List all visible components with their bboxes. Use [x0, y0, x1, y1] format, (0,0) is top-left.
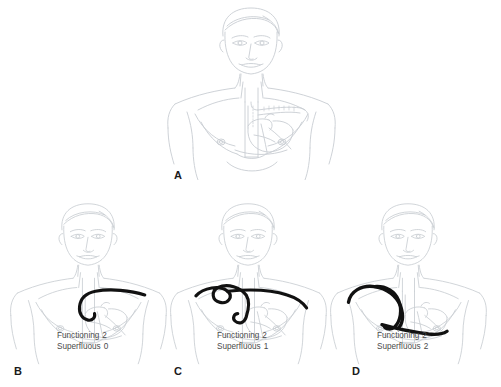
functioning-label: Functioning	[377, 331, 419, 340]
superfluous-value: 0	[104, 342, 109, 351]
pacemaker-lead-functioning	[228, 290, 307, 308]
superfluous-row: Superfluous1	[217, 342, 268, 353]
functioning-row: Functioning2	[57, 331, 108, 342]
functioning-label: Functioning	[217, 331, 259, 340]
superfluous-label: Superfluous	[377, 342, 421, 351]
panel-letter-d: D	[352, 366, 360, 377]
panel-a-illustration	[165, 2, 337, 180]
functioning-value: 2	[102, 331, 107, 340]
functioning-value: 2	[422, 331, 427, 340]
panel-letter-b: B	[14, 366, 22, 377]
pacemaker-lead-group	[196, 286, 307, 323]
functioning-value: 2	[262, 331, 267, 340]
figure-canvas: A	[0, 0, 501, 387]
panel-d-stats: Functioning2 Superfluous2	[377, 331, 428, 352]
superfluous-row: Superfluous2	[377, 342, 428, 353]
functioning-row: Functioning2	[217, 331, 268, 342]
panel-letter-c: C	[174, 366, 182, 377]
superfluous-value: 1	[264, 342, 269, 351]
panel-letter-a: A	[174, 170, 182, 181]
panel-c-stats: Functioning2 Superfluous1	[217, 331, 268, 352]
functioning-label: Functioning	[57, 331, 99, 340]
pacemaker-lead-group	[348, 286, 447, 334]
panel-a	[165, 2, 337, 180]
panel-b-stats: Functioning2 Superfluous0	[57, 331, 108, 352]
pacemaker-lead-functioning	[79, 290, 144, 320]
functioning-row: Functioning2	[377, 331, 428, 342]
superfluous-value: 2	[424, 342, 429, 351]
superfluous-row: Superfluous0	[57, 342, 108, 353]
superfluous-label: Superfluous	[57, 342, 101, 351]
superfluous-label: Superfluous	[217, 342, 261, 351]
